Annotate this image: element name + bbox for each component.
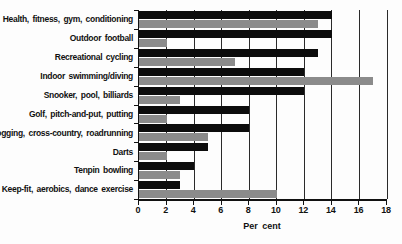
x-tick-label: 4 bbox=[191, 205, 196, 215]
bar-group bbox=[139, 142, 387, 161]
category-label: Jogging, cross-country, roadrunning bbox=[0, 123, 133, 142]
plot-area bbox=[138, 10, 387, 201]
category-axis-labels: Health, fitness, gym, conditioningOutdoo… bbox=[0, 10, 133, 199]
bar-black bbox=[139, 68, 304, 76]
category-label: Tenpin bowling bbox=[0, 161, 133, 180]
x-tick-label: 2 bbox=[163, 205, 168, 215]
bar-black bbox=[139, 124, 249, 132]
x-tick-label: 12 bbox=[299, 205, 309, 215]
bar-black bbox=[139, 143, 208, 151]
bar-black bbox=[139, 49, 318, 57]
x-tick-label: 6 bbox=[218, 205, 223, 215]
bar-rows bbox=[139, 10, 387, 199]
x-tick-label: 14 bbox=[326, 205, 336, 215]
bar-black bbox=[139, 106, 249, 114]
category-label: Recreational cycling bbox=[0, 48, 133, 67]
y-axis-tick bbox=[134, 48, 138, 49]
category-label: Outdoor football bbox=[0, 29, 133, 48]
bar-gray bbox=[139, 171, 180, 179]
x-tick-label: 16 bbox=[354, 205, 364, 215]
bar-group bbox=[139, 48, 387, 67]
bar-gray bbox=[139, 152, 167, 160]
bar-group bbox=[139, 86, 387, 105]
x-tick-label: 10 bbox=[271, 205, 281, 215]
category-label: Indoor swimming/diving bbox=[0, 67, 133, 86]
y-axis-tick bbox=[134, 123, 138, 124]
y-axis-tick bbox=[134, 161, 138, 162]
bar-gray bbox=[139, 115, 167, 123]
bar-gray bbox=[139, 20, 318, 28]
category-label: Darts bbox=[0, 142, 133, 161]
bar-black bbox=[139, 11, 332, 19]
y-axis-tick bbox=[134, 142, 138, 143]
x-tick-label: 18 bbox=[381, 205, 391, 215]
bar-group bbox=[139, 123, 387, 142]
bar-group bbox=[139, 105, 387, 124]
bar-black bbox=[139, 181, 180, 189]
category-label: Snooker, pool, billiards bbox=[0, 86, 133, 105]
bar-group bbox=[139, 180, 387, 199]
bar-group bbox=[139, 67, 387, 86]
category-label: Health, fitness, gym, conditioning bbox=[0, 10, 133, 29]
category-label: Golf, pitch-and-put, putting bbox=[0, 105, 133, 124]
y-axis-tick bbox=[134, 86, 138, 87]
x-tick-label: 0 bbox=[136, 205, 141, 215]
bar-group bbox=[139, 29, 387, 48]
bar-group bbox=[139, 161, 387, 180]
bar-black bbox=[139, 87, 304, 95]
y-axis-tick bbox=[134, 199, 138, 200]
bar-gray bbox=[139, 58, 235, 66]
bar-black bbox=[139, 30, 332, 38]
bar-gray bbox=[139, 39, 167, 47]
bar-gray bbox=[139, 77, 373, 85]
category-label: Keep-fit, aerobics, dance exercise bbox=[0, 180, 133, 199]
y-axis-tick bbox=[134, 29, 138, 30]
bar-chart-figure: Health, fitness, gym, conditioningOutdoo… bbox=[0, 0, 402, 244]
x-axis-title: Per cent bbox=[138, 221, 386, 231]
bar-black bbox=[139, 162, 194, 170]
y-axis-tick bbox=[134, 180, 138, 181]
bar-gray bbox=[139, 96, 180, 104]
y-axis-tick bbox=[134, 10, 138, 11]
bar-gray bbox=[139, 190, 277, 198]
bar-group bbox=[139, 10, 387, 29]
y-axis-tick bbox=[134, 105, 138, 106]
x-tick-label: 8 bbox=[246, 205, 251, 215]
y-axis-tick bbox=[134, 67, 138, 68]
bar-gray bbox=[139, 133, 208, 141]
